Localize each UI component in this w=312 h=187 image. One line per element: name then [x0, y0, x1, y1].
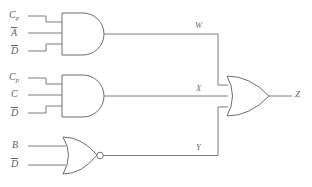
logic-circuit-diagram: Cp A D Cp C D B D W X Y Z	[0, 0, 312, 187]
nor-inversion-bubble	[97, 152, 104, 159]
input-label-d-not-1: D	[11, 45, 18, 56]
input-label-cp-1: Cp	[9, 10, 19, 20]
wire-and2-input1	[28, 78, 62, 84]
and-gate-1-body	[62, 13, 104, 55]
wire-and1-input3	[28, 44, 62, 51]
input-label-d-not-3: D	[11, 158, 18, 169]
output-label-z: Z	[295, 90, 300, 99]
nor-gate-body	[63, 137, 97, 174]
wire-label-x: X	[196, 83, 201, 93]
and-gate-2-body	[62, 75, 104, 117]
circuit-svg	[0, 0, 312, 187]
or-gate-body	[227, 76, 269, 116]
input-label-c: C	[11, 89, 18, 99]
wire-label-y: Y	[196, 142, 201, 152]
input-label-d-not-2: D	[11, 107, 18, 118]
wire-w	[104, 34, 228, 85]
input-label-b: B	[12, 140, 18, 150]
wire-y	[104, 107, 229, 156]
input-label-cp-2: Cp	[9, 72, 19, 82]
input-label-a-not: A	[11, 27, 17, 38]
wire-label-w: W	[195, 20, 202, 30]
wire-and2-input3	[28, 106, 62, 113]
wire-and1-input1	[28, 16, 62, 22]
